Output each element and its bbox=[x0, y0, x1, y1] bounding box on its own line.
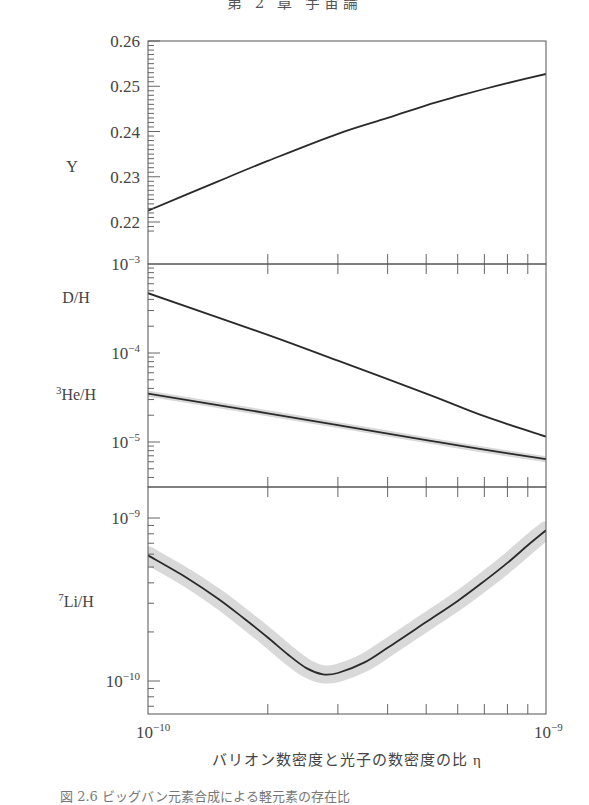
7li-h-uncertainty-band bbox=[148, 530, 546, 674]
ylabel-deuterium: D/H bbox=[62, 289, 90, 306]
y-curve bbox=[148, 74, 546, 211]
y-tick-label: 0.26 bbox=[110, 32, 140, 51]
y-tick-label: 10−9 bbox=[111, 507, 140, 528]
7li-h-curve bbox=[148, 530, 546, 674]
ylabel-helium-mass-fraction: Y bbox=[66, 158, 78, 175]
x-axis-title: バリオン数密度と光子の数密度の比 η bbox=[212, 752, 482, 768]
y-tick-label: 10−4 bbox=[111, 342, 140, 363]
y-tick-label: 0.25 bbox=[110, 77, 140, 96]
y-tick-label: 10−3 bbox=[111, 253, 140, 274]
d-h-curve bbox=[148, 293, 546, 436]
3he-h-curve bbox=[148, 394, 546, 460]
x-tick-label: 10−9 bbox=[534, 721, 563, 742]
y-tick-label: 0.23 bbox=[110, 168, 140, 187]
ylabel-lithium7: 7Li/H bbox=[58, 591, 94, 610]
y-tick-label: 10−10 bbox=[106, 670, 141, 691]
panel-1-frame bbox=[148, 41, 546, 264]
plot-axes bbox=[148, 41, 546, 714]
uncertainty-bands bbox=[148, 394, 546, 675]
figure-caption-fragment: 図 2.6 ビッグバン元素合成による軽元素の存在比 bbox=[60, 786, 560, 805]
ylabel-helium3: 3He/H bbox=[56, 384, 97, 403]
x-tick-label: 10−10 bbox=[136, 721, 171, 742]
y-tick-label: 0.22 bbox=[110, 213, 140, 232]
page-header-fragment: 第 2 章 宇宙論 bbox=[0, 0, 589, 12]
axis-labels: 0.220.230.240.250.2610−310−410−510−910−1… bbox=[56, 32, 563, 768]
y-tick-label: 10−5 bbox=[111, 431, 140, 452]
panel-2-frame bbox=[148, 264, 546, 487]
y-tick-label: 0.24 bbox=[110, 123, 140, 142]
